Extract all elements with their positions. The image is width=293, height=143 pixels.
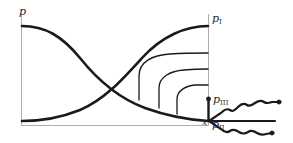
- pressure-axis-label: p: [19, 6, 26, 17]
- figure-container: p pI pIII pII x: [0, 0, 293, 143]
- arc-contours: [139, 53, 208, 114]
- pressure-axis-symbol: p: [19, 5, 26, 18]
- distance-axis-symbol: x: [202, 117, 207, 127]
- pressure-region-one-label: pI: [212, 13, 222, 24]
- p-two-subscript: II: [219, 124, 225, 132]
- decaying-profile-curve: [22, 26, 208, 121]
- p-three-point-dot: [206, 97, 211, 102]
- p-two-symbol: p: [212, 118, 219, 131]
- distance-axis-label: x: [202, 118, 207, 127]
- p-one-subscript: I: [219, 18, 222, 26]
- pressure-region-two-label: pII: [212, 119, 225, 130]
- arc-contour-inner: [177, 85, 208, 114]
- profile-curves: [22, 26, 208, 121]
- rising-profile-curve: [22, 26, 208, 121]
- schematic-diagram-canvas: [0, 0, 293, 143]
- upper-front-endpoint: [277, 100, 281, 104]
- lower-front-endpoint: [270, 131, 274, 135]
- p-one-symbol: p: [212, 12, 219, 25]
- p-three-subscript: III: [220, 99, 228, 107]
- p-three-symbol: p: [213, 93, 220, 106]
- arc-contour-outer: [139, 53, 208, 100]
- pressure-region-three-label: pIII: [213, 94, 229, 105]
